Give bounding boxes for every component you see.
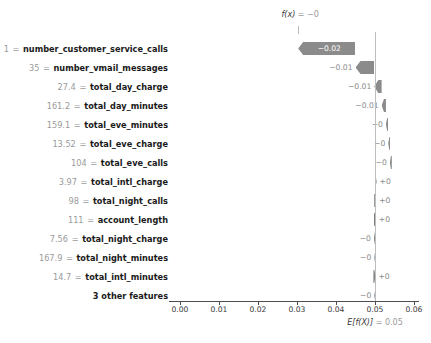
feature-equals-sign: = <box>68 234 82 244</box>
feature-value: 13.52 <box>52 139 75 149</box>
feature-equals-sign: = <box>76 139 90 149</box>
shap-bar-value: −0.01 <box>329 61 352 74</box>
feature-label: 167.9 = total_night_minutes <box>39 251 168 265</box>
shap-bar-value: −0 <box>376 156 387 169</box>
shap-bar-value: −0 <box>360 232 371 245</box>
x-axis-tick-label: 0.05 <box>367 305 384 314</box>
feature-label: 111 = account_length <box>68 213 168 227</box>
feature-value: 104 <box>71 158 87 168</box>
shap-bar[interactable] <box>356 61 375 74</box>
shap-waterfall-plot: 1 = number_customer_service_calls35 = nu… <box>0 0 431 343</box>
feature-name: total_eve_charge <box>90 139 168 149</box>
feature-label: 161.2 = total_day_minutes <box>47 99 168 113</box>
shap-bar-value: +0 <box>379 213 390 226</box>
feature-equals-sign: = <box>87 158 101 168</box>
feature-label: 14.7 = total_intl_minutes <box>53 270 168 284</box>
shap-bar-value: −0 <box>372 118 383 131</box>
feature-value: 98 <box>68 196 78 206</box>
feature-value: 14.7 <box>53 272 71 282</box>
base-value-annotation: E[f(X)] = 0.05 <box>347 318 402 327</box>
feature-value: 159.1 <box>47 120 70 130</box>
shap-bar-value: +0 <box>378 270 389 283</box>
feature-value: 161.2 <box>47 101 70 111</box>
x-axis-tick-label: 0.00 <box>172 305 189 314</box>
feature-label: 3 other features <box>93 289 168 303</box>
base-value-label: E[f(X)] <box>347 318 373 327</box>
x-axis-tick-label: 0.02 <box>250 305 267 314</box>
feature-name: account_length <box>98 215 168 225</box>
base-value-line <box>375 32 376 301</box>
feature-value: 7.56 <box>50 234 68 244</box>
feature-equals-sign: = <box>71 272 85 282</box>
feature-label: 3.97 = total_intl_charge <box>59 175 168 189</box>
feature-name: number_customer_service_calls <box>23 44 168 54</box>
feature-name: total_night_calls <box>93 196 168 206</box>
x-axis-tick-label: 0.01 <box>211 305 228 314</box>
shap-bar[interactable] <box>388 137 390 150</box>
feature-label: 35 = number_vmail_messages <box>29 61 168 75</box>
shap-bar-value: −0.01 <box>348 80 371 93</box>
feature-label: 98 = total_night_calls <box>68 194 168 208</box>
feature-label-column: 1 = number_customer_service_calls35 = nu… <box>0 0 168 343</box>
feature-value: 167.9 <box>39 253 62 263</box>
feature-name: total_night_charge <box>82 234 168 244</box>
feature-label: 27.4 = total_day_charge <box>58 80 168 94</box>
feature-name: total_day_minutes <box>84 101 168 111</box>
feature-name: total_intl_minutes <box>85 272 168 282</box>
shap-bar-shape <box>382 99 386 112</box>
feature-value: 3.97 <box>59 177 77 187</box>
output-value-annotation: f(x) = −0 <box>281 10 318 19</box>
shap-bar-shape <box>386 118 388 131</box>
x-axis-tick-label: 0.06 <box>406 305 423 314</box>
x-axis-tick-label: 0.04 <box>328 305 345 314</box>
base-value-text: = 0.05 <box>376 318 403 327</box>
feature-name: total_day_charge <box>90 82 168 92</box>
feature-equals-sign: = <box>79 196 93 206</box>
shap-bar-shape <box>388 137 390 150</box>
feature-value: 35 <box>29 63 39 73</box>
output-value-text: = −0 <box>298 10 319 19</box>
shap-bar-value: −0.02 <box>303 42 355 55</box>
feature-equals-sign: = <box>9 44 23 54</box>
shap-bar-value: +0 <box>380 175 391 188</box>
shap-bar-shape <box>356 61 375 74</box>
feature-label: 159.1 = total_eve_minutes <box>47 118 168 132</box>
feature-label: 7.56 = total_night_charge <box>50 232 168 246</box>
shap-bar[interactable] <box>382 99 386 112</box>
feature-name: total_intl_charge <box>91 177 168 187</box>
feature-equals-sign: = <box>84 215 98 225</box>
x-axis-tick-label: 0.03 <box>289 305 306 314</box>
x-axis-line <box>169 301 419 302</box>
feature-equals-sign: = <box>70 101 84 111</box>
feature-name: 3 other features <box>93 291 168 301</box>
feature-equals-sign: = <box>39 63 53 73</box>
output-value-tick <box>298 26 299 34</box>
feature-label: 13.52 = total_eve_charge <box>52 137 168 151</box>
feature-value: 27.4 <box>58 82 76 92</box>
feature-equals-sign: = <box>70 120 84 130</box>
feature-name: total_eve_minutes <box>84 120 168 130</box>
shap-bar-shape <box>390 156 392 169</box>
feature-name: number_vmail_messages <box>54 63 168 73</box>
feature-equals-sign: = <box>76 82 90 92</box>
output-value-label: f(x) <box>281 10 295 19</box>
feature-name: total_eve_calls <box>101 158 168 168</box>
shap-bar[interactable] <box>390 156 392 169</box>
feature-name: total_night_minutes <box>76 253 168 263</box>
feature-value: 111 <box>68 215 84 225</box>
shap-bar-value: +0 <box>379 194 390 207</box>
shap-bar-value: −0 <box>360 251 371 264</box>
feature-label: 104 = total_eve_calls <box>71 156 168 170</box>
shap-bar[interactable] <box>386 118 388 131</box>
feature-label: 1 = number_customer_service_calls <box>4 42 168 56</box>
feature-equals-sign: = <box>77 177 91 187</box>
feature-equals-sign: = <box>62 253 76 263</box>
